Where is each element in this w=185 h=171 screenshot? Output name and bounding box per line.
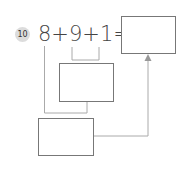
arrow-up-icon xyxy=(145,54,152,61)
answer-box[interactable] xyxy=(121,16,176,54)
math-expression: 8+9+1= xyxy=(38,22,131,46)
bracket-9-1 xyxy=(72,47,99,60)
bottom-sum-box[interactable] xyxy=(38,118,94,156)
middle-sum-box[interactable] xyxy=(59,63,114,102)
problem-number-badge: 10 xyxy=(15,27,30,42)
